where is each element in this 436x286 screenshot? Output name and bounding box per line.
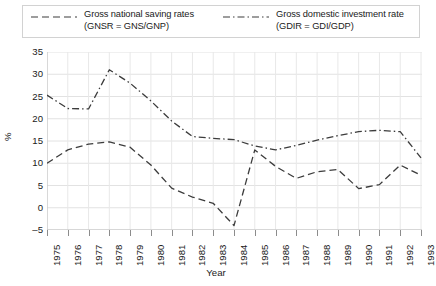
x-axis-title: Year bbox=[0, 267, 432, 278]
y-tick-label: 15 bbox=[32, 136, 43, 146]
x-tick-mark bbox=[130, 230, 131, 236]
x-tick-label: 1992 bbox=[404, 245, 415, 266]
legend-label-gnsr: Gross national saving rates (GNSR = GNS/… bbox=[84, 9, 194, 32]
x-tick-label: 1982 bbox=[196, 245, 207, 266]
y-tick-label: 10 bbox=[32, 158, 43, 168]
legend-line-dashdot-icon bbox=[223, 12, 269, 22]
x-tick-mark bbox=[192, 230, 193, 236]
x-tick-label: 1983 bbox=[217, 245, 228, 266]
x-tick-label: 1977 bbox=[93, 245, 104, 266]
x-tick-label: 1991 bbox=[383, 245, 394, 266]
x-tick-label: 1990 bbox=[363, 245, 374, 266]
x-axis-tick-labels: 1975197619771978197919801981198219831984… bbox=[47, 238, 422, 268]
series-line-gnsr bbox=[47, 142, 421, 226]
x-tick-mark bbox=[68, 230, 69, 236]
chart-series-layer bbox=[47, 52, 422, 230]
x-tick-label: 1978 bbox=[113, 245, 124, 266]
x-tick-label: 1976 bbox=[72, 245, 83, 266]
y-tick-label: 35 bbox=[32, 47, 43, 57]
x-tick-mark bbox=[89, 230, 90, 236]
x-tick-mark bbox=[317, 230, 318, 236]
x-tick-mark bbox=[421, 230, 422, 236]
y-tick-label: 0 bbox=[38, 203, 43, 213]
x-tick-mark bbox=[109, 230, 110, 236]
chart-legend: Gross national saving rates (GNSR = GNS/… bbox=[22, 5, 420, 38]
y-tick-label: –5 bbox=[32, 225, 43, 235]
x-tick-mark bbox=[213, 230, 214, 236]
legend-label-gdir: Gross domestic investment rate (GDIR = G… bbox=[276, 9, 404, 32]
y-tick-label: 20 bbox=[32, 114, 43, 124]
x-tick-label: 1986 bbox=[280, 245, 291, 266]
y-tick-label: 5 bbox=[38, 181, 43, 191]
x-tick-label: 1987 bbox=[300, 245, 311, 266]
x-tick-mark bbox=[359, 230, 360, 236]
y-axis-tick-labels: –505101520253035 bbox=[0, 52, 43, 230]
x-tick-mark bbox=[296, 230, 297, 236]
x-tick-mark bbox=[234, 230, 235, 236]
x-tick-label: 1985 bbox=[259, 245, 270, 266]
x-tick-mark bbox=[400, 230, 401, 236]
x-tick-mark bbox=[276, 230, 277, 236]
x-tick-label: 1979 bbox=[134, 245, 145, 266]
y-tick-label: 30 bbox=[32, 69, 43, 79]
x-tick-label: 1988 bbox=[321, 245, 332, 266]
legend-item-gdir: Gross domestic investment rate (GDIR = G… bbox=[223, 9, 404, 32]
x-tick-mark bbox=[151, 230, 152, 236]
x-tick-mark bbox=[172, 230, 173, 236]
x-tick-mark bbox=[338, 230, 339, 236]
x-tick-mark bbox=[255, 230, 256, 236]
x-tick-label: 1989 bbox=[342, 245, 353, 266]
legend-line-dashed-icon bbox=[31, 12, 77, 22]
x-axis-tick-marks bbox=[47, 230, 422, 236]
x-tick-mark bbox=[47, 230, 48, 236]
x-tick-label: 1975 bbox=[51, 245, 62, 266]
x-tick-label: 1981 bbox=[176, 245, 187, 266]
x-tick-label: 1980 bbox=[155, 245, 166, 266]
series-line-gdir bbox=[47, 70, 421, 158]
x-tick-mark bbox=[379, 230, 380, 236]
y-tick-label: 25 bbox=[32, 92, 43, 102]
legend-item-gnsr: Gross national saving rates (GNSR = GNS/… bbox=[31, 9, 194, 32]
x-tick-label: 1993 bbox=[425, 245, 436, 266]
plot-area bbox=[47, 52, 422, 230]
x-tick-label: 1984 bbox=[238, 245, 249, 266]
